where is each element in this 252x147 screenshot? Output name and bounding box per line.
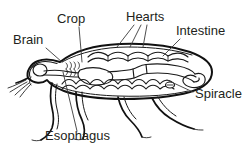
- label-crop: Crop: [57, 11, 85, 26]
- label-intestine: Intestine: [176, 23, 225, 38]
- label-brain: Brain: [13, 32, 43, 47]
- diagram-canvas: Brain Crop Hearts Intestine Spiracle Eso…: [0, 0, 252, 147]
- label-hearts: Hearts: [126, 9, 165, 24]
- label-spiracle: Spiracle: [195, 86, 242, 101]
- brain-ganglion: [33, 64, 47, 76]
- label-esophagus: Esophagus: [45, 128, 111, 143]
- insect-anatomy-diagram: Brain Crop Hearts Intestine Spiracle Eso…: [0, 0, 252, 147]
